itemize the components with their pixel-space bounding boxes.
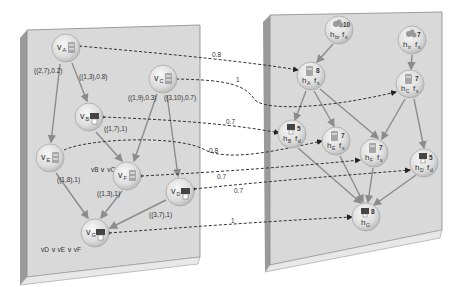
- svg-text:h: h: [302, 76, 306, 85]
- svg-text:7: 7: [341, 132, 345, 139]
- resource-node-hD[interactable]: 5 h D f d: [410, 149, 438, 177]
- svg-text:d: d: [430, 167, 433, 173]
- svg-text:h: h: [327, 141, 331, 150]
- svg-text:A: A: [63, 47, 67, 53]
- database-icon: [306, 66, 313, 76]
- svg-text:E: E: [47, 157, 51, 163]
- mapping-labels: 0.8 1 0.7 0.8 0.7 0.7 1: [209, 51, 243, 224]
- condition-label: vD ∨ vE ∨ vF: [41, 246, 81, 253]
- svg-text:br: br: [335, 34, 340, 40]
- svg-text:7: 7: [415, 75, 419, 82]
- database-icon: [369, 143, 376, 153]
- diagram-canvas: 0.8 1 0.7 0.8 0.7 0.7 1 ((2,7),0.2) ((1,…: [0, 0, 464, 287]
- map-label: 0.8: [212, 51, 221, 58]
- database-icon: [129, 170, 136, 181]
- svg-text:C: C: [406, 88, 410, 94]
- resource-node-hA[interactable]: 8 h A f s: [297, 62, 325, 90]
- svg-text:v: v: [57, 42, 62, 52]
- svg-text:v: v: [171, 186, 176, 196]
- svg-text:h: h: [365, 153, 369, 162]
- edge-label: ((2,7),0.2): [34, 67, 63, 75]
- svg-text:8: 8: [316, 67, 320, 74]
- resource-node-hC[interactable]: 7 h C f s: [396, 70, 424, 98]
- resource-node-hG[interactable]: 8 h G: [352, 203, 380, 231]
- svg-text:h: h: [361, 218, 365, 227]
- database-icon: [165, 73, 172, 84]
- edge-label: ((1,3),1): [97, 190, 120, 198]
- svg-text:D: D: [177, 191, 181, 197]
- svg-text:h: h: [283, 134, 287, 143]
- svg-text:d: d: [298, 138, 301, 144]
- svg-text:v: v: [80, 111, 85, 121]
- svg-text:v: v: [41, 152, 46, 162]
- resource-node-hbr[interactable]: 10 h br f s: [325, 16, 353, 44]
- edge-label: ((1,7),1): [104, 125, 127, 133]
- task-node-vC[interactable]: v C: [149, 65, 177, 93]
- task-node-vD[interactable]: v D: [166, 178, 194, 206]
- svg-text:10: 10: [343, 21, 351, 28]
- task-node-vA[interactable]: v A: [52, 34, 80, 62]
- svg-text:B: B: [86, 116, 90, 122]
- svg-text:h: h: [415, 163, 419, 172]
- resource-node-htr[interactable]: 7 h tr f s: [398, 26, 426, 54]
- svg-text:C: C: [160, 78, 164, 84]
- svg-text:5: 5: [429, 154, 433, 161]
- edge-label: ((1,9),0.3): [128, 94, 157, 102]
- resource-node-hF[interactable]: 7 h F f s: [360, 139, 388, 167]
- database-icon: [52, 152, 59, 163]
- database-icon: [405, 74, 412, 84]
- resource-node-hE[interactable]: 7 h E f s: [322, 127, 350, 155]
- map-label: 0.7: [217, 173, 226, 180]
- svg-text:h: h: [403, 40, 407, 49]
- svg-text:7: 7: [417, 31, 421, 38]
- resource-node-hB[interactable]: 5 h B f d: [278, 120, 306, 148]
- svg-text:tr: tr: [408, 44, 411, 50]
- map-label: 1: [236, 76, 240, 83]
- condition-label: vB ∨ vC: [91, 166, 115, 173]
- svg-text:7: 7: [379, 144, 383, 151]
- map-label: 1: [231, 217, 235, 224]
- map-label: 0.7: [226, 118, 235, 125]
- edge-htr-hC: [411, 55, 412, 69]
- svg-text:D: D: [420, 167, 424, 173]
- svg-text:v: v: [118, 170, 123, 180]
- edge-label: ((3,10),0.7): [164, 94, 196, 102]
- database-icon: [331, 131, 338, 141]
- svg-text:v: v: [154, 73, 159, 83]
- task-node-vE[interactable]: v E: [36, 144, 64, 172]
- svg-text:5: 5: [297, 125, 301, 132]
- svg-text:F: F: [370, 157, 373, 163]
- left-panel-side: [20, 30, 27, 285]
- task-node-vF[interactable]: v F: [113, 162, 141, 190]
- edge-label: ((3,7),1): [149, 211, 172, 219]
- edge-label: ((1,8),1): [57, 176, 80, 184]
- svg-text:G: G: [366, 222, 370, 228]
- edge-label: ((1,3),0.8): [79, 73, 108, 81]
- svg-text:8: 8: [371, 208, 375, 215]
- map-label: 0.8: [209, 147, 218, 154]
- database-icon: [68, 42, 75, 53]
- svg-text:v: v: [86, 227, 91, 237]
- svg-text:h: h: [401, 84, 405, 93]
- map-label: 0.7: [234, 187, 243, 194]
- right-panel-side: [263, 15, 270, 272]
- task-node-vG[interactable]: v G: [81, 219, 109, 247]
- svg-text:h: h: [330, 30, 334, 39]
- task-node-vB[interactable]: v B: [75, 103, 103, 131]
- svg-text:G: G: [92, 232, 96, 238]
